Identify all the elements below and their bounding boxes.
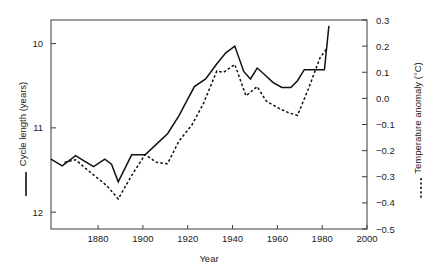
right-axis-tick-labels: 0.30.20.10.0−0.1−0.2−0.3−0.4−0.5 — [376, 15, 395, 235]
left-tick-label: 11 — [33, 122, 43, 133]
left-axis-title: Cycle length (years) — [17, 82, 28, 166]
series-temperature-anomaly-line — [64, 49, 326, 199]
x-tick-label: 1880 — [87, 233, 108, 244]
right-tick-label: −0.3 — [376, 171, 395, 182]
x-tick-label: 1900 — [132, 233, 153, 244]
chart-figure: 1880190019201940196019802000 101112 0.30… — [0, 0, 437, 275]
right-tick-label: 0.1 — [376, 67, 389, 78]
x-tick-label: 1920 — [177, 233, 198, 244]
right-tick-label: −0.2 — [376, 145, 395, 156]
x-axis-ticks — [98, 225, 367, 229]
left-axis-tick-labels: 101112 — [32, 38, 43, 218]
right-axis-title: Temperature anomaly (°C) — [412, 62, 423, 174]
right-axis-ticks — [362, 20, 367, 229]
right-tick-label: −0.4 — [376, 197, 395, 208]
right-tick-label: 0.3 — [376, 15, 389, 26]
left-axis-ticks — [51, 44, 56, 213]
x-tick-label: 1980 — [312, 233, 333, 244]
right-tick-label: 0.2 — [376, 41, 389, 52]
right-tick-label: 0.0 — [376, 93, 389, 104]
left-tick-label: 12 — [32, 207, 43, 218]
series-cycle-length-line — [51, 26, 329, 182]
right-tick-label: −0.1 — [376, 119, 395, 130]
x-axis-tick-labels: 1880190019201940196019802000 — [87, 233, 377, 244]
plot-frame — [51, 20, 367, 229]
x-tick-label: 2000 — [356, 233, 377, 244]
x-tick-label: 1940 — [222, 233, 243, 244]
left-tick-label: 10 — [32, 38, 43, 49]
right-tick-label: −0.5 — [376, 224, 395, 235]
chart-canvas: 1880190019201940196019802000 101112 0.30… — [0, 0, 437, 275]
x-axis-title: Year — [199, 253, 218, 264]
x-tick-label: 1960 — [267, 233, 288, 244]
